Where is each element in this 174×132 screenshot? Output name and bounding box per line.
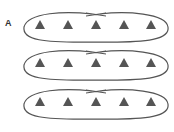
loop-group xyxy=(24,51,168,81)
triangle-icon xyxy=(63,97,73,106)
triangle-icon xyxy=(35,97,45,106)
triangle-icon xyxy=(146,58,156,67)
panel-label: A xyxy=(5,18,12,28)
loops-diagram xyxy=(0,0,174,132)
triangle-icon xyxy=(63,20,73,29)
loop-group xyxy=(24,13,168,43)
triangle-icon xyxy=(119,97,129,106)
loop-group xyxy=(24,90,168,120)
triangle-icon xyxy=(35,20,45,29)
triangle-icon xyxy=(91,20,101,29)
triangle-icon xyxy=(91,97,101,106)
triangle-icon xyxy=(91,58,101,67)
triangle-icon xyxy=(146,97,156,106)
triangle-icon xyxy=(63,58,73,67)
diagram-figure: A xyxy=(0,0,174,132)
triangle-icon xyxy=(146,20,156,29)
triangle-icon xyxy=(119,58,129,67)
triangle-icon xyxy=(119,20,129,29)
triangle-icon xyxy=(35,58,45,67)
